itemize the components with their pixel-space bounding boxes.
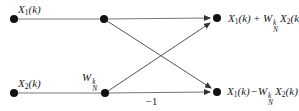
twiddle-scripts: kN (92, 79, 97, 92)
butterfly-diagram: X1(k) X2(k) WkN X1(k)+WkNX2(k) X1(k)−WkN… (0, 0, 299, 111)
out-top-operator: + (254, 12, 260, 24)
input-x2-label: X2(k) (18, 77, 41, 90)
out-bottom-x1-arg: (k) (237, 85, 249, 97)
out-top-x1-arg: (k) (238, 12, 250, 24)
out-bottom-w-scripts: kN (268, 93, 273, 106)
wire-top-to-output-arrow (104, 18, 210, 19)
out-top-w: W (263, 12, 272, 24)
output-top-label: X1(k)+WkNX2(k) (228, 12, 299, 33)
node-mid-bottom (101, 89, 109, 97)
wire-cross-bottom-to-top-arrow (105, 23, 210, 93)
node-input-x1 (10, 15, 18, 23)
node-mid-top (100, 15, 108, 23)
out-top-x2: X (280, 12, 287, 24)
input-x1-label: X1(k) (18, 3, 41, 16)
twiddle-subscript: N (92, 86, 97, 93)
out-bottom-x1: X (227, 85, 234, 97)
x2-argument: (k) (28, 77, 40, 89)
out-bottom-x2: X (275, 85, 282, 97)
wire-cross-top-to-bottom-arrow (104, 19, 211, 88)
out-bottom-operator: − (251, 85, 257, 97)
out-top-x2-arg: (k) (291, 12, 299, 24)
out-bottom-x2-arg: (k) (286, 85, 298, 97)
out-bottom-w-sub: N (268, 100, 273, 107)
x2-base: X (18, 77, 25, 89)
twiddle-factor-label: WkN (82, 71, 99, 92)
twiddle-base: W (82, 71, 91, 83)
out-top-w-scripts: kN (273, 20, 278, 33)
node-input-x2 (10, 89, 18, 97)
out-top-w-sub: N (273, 27, 278, 34)
output-bottom-label: X1(k)−WkNX2(k) (227, 85, 298, 106)
wire-bottom-to-output-arrow (105, 92, 210, 93)
gain-minus-one-label: −1 (146, 95, 157, 108)
node-output-top (213, 14, 221, 22)
out-top-x1: X (228, 12, 235, 24)
x1-base: X (18, 3, 25, 15)
out-bottom-w: W (258, 85, 267, 97)
node-output-bottom (213, 88, 221, 96)
x1-argument: (k) (28, 3, 40, 15)
